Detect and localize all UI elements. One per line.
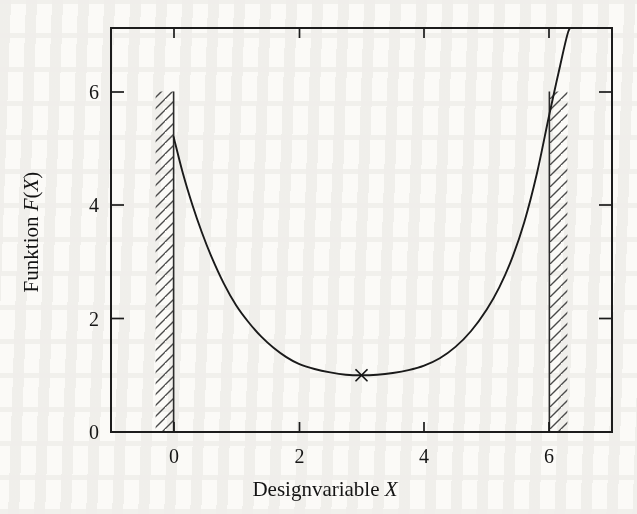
y-axis-ticks-left: [111, 92, 124, 319]
chart-plot: 0 2 4 6 6 4 2 0 Designvariable X Funktio…: [0, 0, 637, 514]
y-tick-label-0: 0: [89, 421, 99, 443]
x-axis-title-variable: X: [384, 477, 399, 501]
y-axis-title-text: Funktion: [19, 216, 43, 292]
y-tick-label-6: 6: [89, 81, 99, 103]
function-curve: [174, 28, 574, 376]
x-axis-ticks-bottom: [174, 422, 549, 432]
y-axis-title: Funktion F(X): [19, 172, 43, 293]
x-axis-title-text: Designvariable: [252, 477, 379, 501]
y-tick-labels: 6 4 2 0: [89, 81, 99, 443]
y-tick-label-2: 2: [89, 308, 99, 330]
figure-canvas: 0 2 4 6 6 4 2 0 Designvariable X Funktio…: [0, 0, 637, 514]
y-axis-ticks-right: [599, 92, 612, 319]
x-tick-labels: 0 2 4 6: [169, 445, 554, 467]
plot-frame: [111, 28, 612, 432]
x-tick-label-6: 6: [544, 445, 554, 467]
x-axis-title: Designvariable X: [252, 477, 398, 501]
y-axis-title-variable: X: [19, 177, 43, 192]
x-tick-label-2: 2: [295, 445, 305, 467]
y-axis-title-function: F: [19, 198, 43, 212]
y-tick-label-4: 4: [89, 194, 99, 216]
x-tick-label-4: 4: [419, 445, 429, 467]
constraint-region-lower: [156, 92, 174, 432]
x-axis-ticks-top: [174, 28, 549, 38]
x-tick-label-0: 0: [169, 445, 179, 467]
constraint-region-upper: [549, 92, 567, 432]
